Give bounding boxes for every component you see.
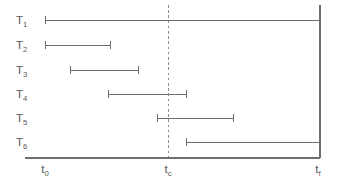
timeline-chart: T1T2T3T4T5T6 t0tctf xyxy=(0,0,339,185)
task-row-t6: T6 xyxy=(16,136,320,151)
task-row-t4: T4 xyxy=(16,88,186,103)
axis-tick-label-tf: tf xyxy=(315,163,321,178)
axis-tick-label-tc: tc xyxy=(164,163,171,178)
task-label-t3: T3 xyxy=(16,64,27,79)
axis-layer xyxy=(25,5,320,158)
task-label-t1: T1 xyxy=(16,14,27,29)
tick-label-layer: t0tctf xyxy=(41,163,321,178)
task-row-t2: T2 xyxy=(16,39,110,54)
task-row-t5: T5 xyxy=(16,112,233,127)
timeline-figure: T1T2T3T4T5T6 t0tctf xyxy=(0,0,339,185)
axis-tick-label-t0: t0 xyxy=(41,163,49,178)
task-row-t3: T3 xyxy=(16,64,138,79)
task-label-t4: T4 xyxy=(16,88,28,103)
task-label-t5: T5 xyxy=(16,112,28,127)
task-label-t6: T6 xyxy=(16,136,27,151)
task-label-t2: T2 xyxy=(16,39,27,54)
